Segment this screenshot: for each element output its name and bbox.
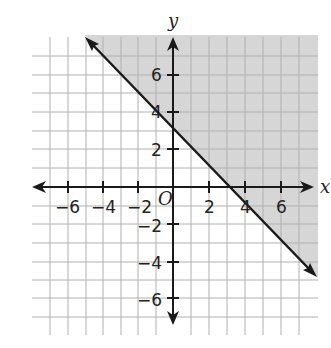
x-tick-label: 4 [240, 197, 251, 217]
x-tick-label: 2 [204, 197, 215, 217]
y-tick-label: −2 [137, 216, 162, 236]
x-tick-label: 6 [276, 197, 287, 217]
y-tick-label: −6 [137, 290, 162, 310]
x-tick-label: −6 [55, 197, 80, 217]
y-axis-label: y [167, 10, 179, 31]
y-tick-label: 4 [151, 102, 162, 122]
y-tick-label: −4 [137, 253, 162, 273]
coordinate-graph: y x O −6 −4 −2 2 4 6 6 4 2 −2 −4 −6 [0, 0, 331, 348]
x-tick-label: −2 [127, 197, 152, 217]
x-axis-label: x [320, 176, 330, 197]
y-tick-label: 6 [151, 65, 162, 85]
origin-label: O [158, 188, 173, 209]
y-tick-label: 2 [151, 140, 162, 160]
x-tick-label: −4 [91, 197, 116, 217]
